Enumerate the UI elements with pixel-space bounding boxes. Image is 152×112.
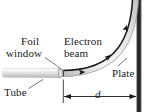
- label-distance-d: d: [95, 89, 101, 100]
- plate-leader-line: [118, 58, 127, 66]
- plate-shape: [137, 0, 142, 112]
- label-foil-window: Foil window: [18, 36, 42, 59]
- label-electron-beam-line1: Electron: [64, 35, 102, 47]
- label-foil-window-line2: window: [6, 48, 42, 59]
- physics-figure: Foil window Electron beam Tube Plate d: [0, 0, 152, 112]
- foil-window-leader-line: [45, 58, 62, 70]
- tube-leader-line: [29, 80, 44, 89]
- label-foil-window-line1: Foil: [21, 35, 39, 47]
- label-electron-beam: Electron beam: [64, 36, 102, 59]
- dimension-arrow-right-icon: [130, 94, 137, 99]
- label-electron-beam-line2: beam: [64, 48, 102, 59]
- label-plate: Plate: [112, 68, 135, 79]
- dimension-arrow-left-icon: [64, 94, 71, 99]
- label-tube: Tube: [4, 87, 27, 98]
- tube-shape: [2, 68, 63, 78]
